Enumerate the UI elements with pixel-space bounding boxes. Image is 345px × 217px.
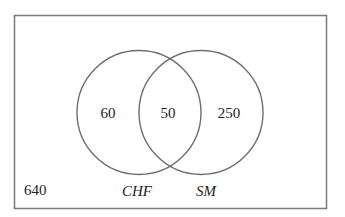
intersection-count: 50: [161, 105, 176, 121]
set-label-chf: CHF: [122, 183, 153, 199]
sm-only-count: 250: [218, 105, 241, 121]
chf-only-count: 60: [101, 105, 116, 121]
outside-count: 640: [24, 182, 47, 198]
venn-diagram: 60 50 250 640 CHF SM: [0, 0, 345, 217]
set-label-sm: SM: [196, 183, 218, 199]
